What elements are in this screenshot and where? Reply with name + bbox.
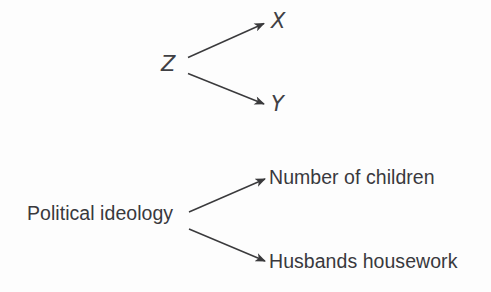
- arrow-z-to-x: [188, 24, 264, 58]
- arrow-z-to-y: [188, 74, 264, 105]
- node-label-y: Y: [271, 94, 284, 115]
- diagram-arrows-layer: [0, 0, 491, 292]
- node-label-political-ideology: Political ideology: [27, 204, 173, 224]
- node-label-z: Z: [161, 54, 176, 75]
- node-label-number-of-children: Number of children: [269, 168, 435, 188]
- arrow-ideology-to-children: [189, 179, 265, 212]
- figure-canvas: Z X Y Political ideology Number of child…: [0, 0, 491, 292]
- node-label-husbands-housework: Husbands housework: [269, 252, 457, 272]
- arrow-ideology-to-housework: [189, 229, 265, 261]
- node-label-x: X: [271, 11, 286, 32]
